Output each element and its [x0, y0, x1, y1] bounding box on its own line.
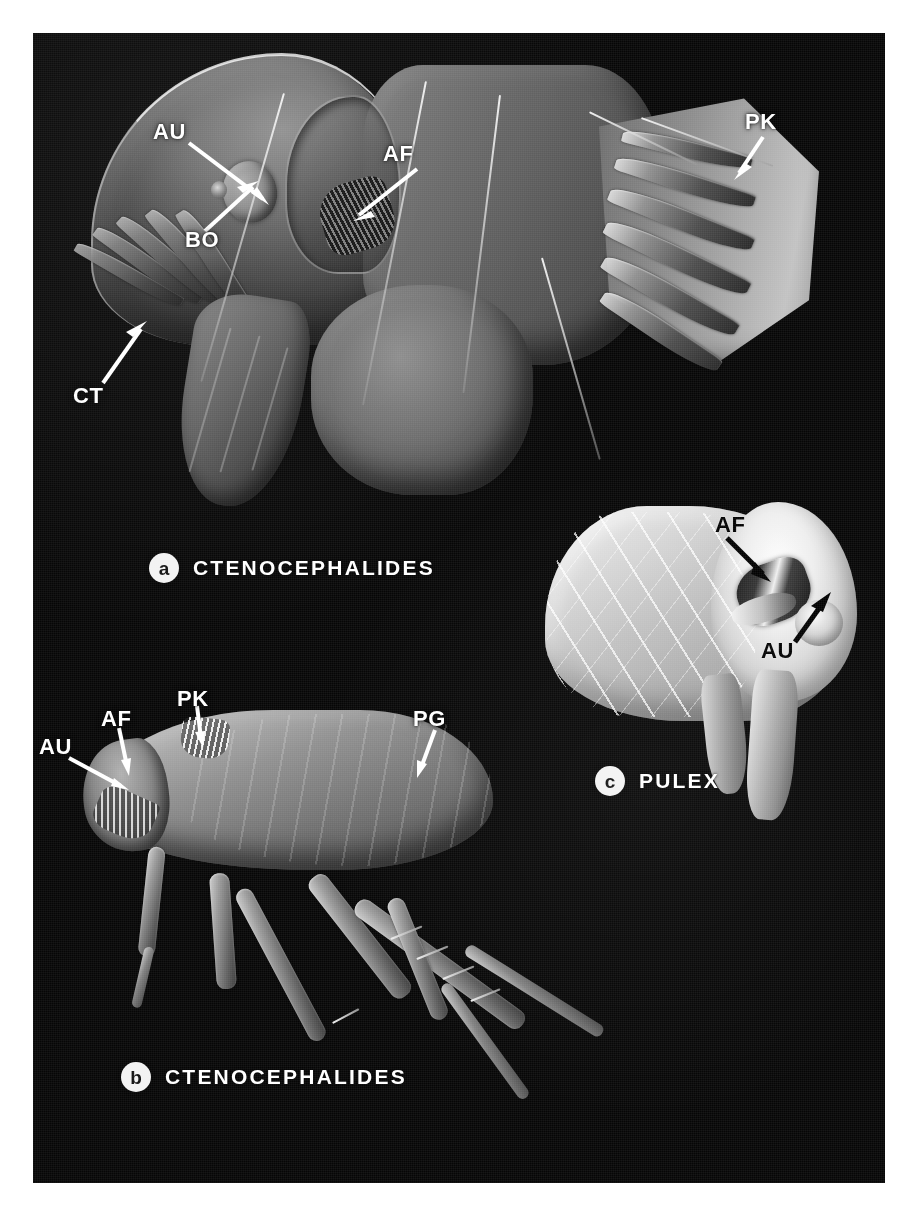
- label-af-panel-b: AF: [101, 708, 132, 730]
- midleg-tibia: [233, 886, 329, 1045]
- label-au-panel-c: AU: [761, 640, 794, 662]
- caption-panel-b: b CTENOCEPHALIDES: [121, 1062, 407, 1092]
- foreleg: [138, 846, 166, 957]
- label-ct-panel-a: CT: [73, 385, 104, 407]
- caption-panel-c: c PULEX: [595, 766, 720, 796]
- sensory-pit: [211, 181, 227, 199]
- panel-taxon-b: CTENOCEPHALIDES: [165, 1065, 407, 1089]
- label-au-panel-b: AU: [39, 736, 72, 758]
- label-af-panel-c: AF: [715, 514, 746, 536]
- panel-badge-c: c: [595, 766, 625, 796]
- micrograph-plate: AU AF BO PK CT: [33, 33, 885, 1183]
- label-pg-panel-b: PG: [413, 708, 446, 730]
- label-pk-panel-b: PK: [177, 688, 209, 710]
- panel-taxon-a: CTENOCEPHALIDES: [193, 556, 435, 580]
- midleg-femur: [209, 873, 237, 990]
- caption-panel-a: a CTENOCEPHALIDES: [149, 553, 435, 583]
- figure-page: AU AF BO PK CT: [0, 0, 913, 1216]
- label-pk-panel-a: PK: [745, 111, 777, 133]
- leg-spine: [332, 1008, 359, 1024]
- label-af-panel-a: AF: [383, 143, 414, 165]
- label-bo-panel-a: BO: [185, 229, 219, 251]
- eye: [795, 600, 843, 646]
- abdominal-terga: [183, 714, 493, 866]
- foreleg-tarsus: [131, 946, 155, 1009]
- coxa: [744, 669, 800, 822]
- panel-badge-a: a: [149, 553, 179, 583]
- label-au-panel-a: AU: [153, 121, 186, 143]
- panel-b-ctenocephalides-whole: AU AF PK PG: [33, 688, 593, 1108]
- panel-a-ctenocephalides-head: AU AF BO PK CT: [33, 33, 885, 503]
- coxa-disc: [311, 285, 533, 495]
- panel-badge-b: b: [121, 1062, 151, 1092]
- panel-taxon-c: PULEX: [639, 769, 720, 793]
